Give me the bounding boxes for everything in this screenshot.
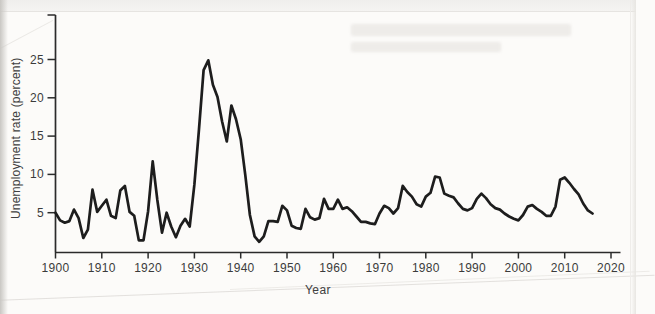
x-tick-label: 2020 — [593, 262, 629, 274]
y-axis — [48, 15, 56, 253]
x-tick-label: 1970 — [362, 262, 398, 274]
x-tick-label: 1920 — [130, 262, 166, 274]
x-tick-label: 1910 — [84, 262, 120, 274]
x-tick-label: 1930 — [176, 262, 212, 274]
x-axis-title: Year — [297, 283, 339, 297]
y-tick-label: 20 — [24, 92, 44, 104]
y-tick-label: 5 — [24, 207, 44, 219]
x-axis-ticks — [56, 253, 612, 259]
x-tick-label: 1980 — [408, 262, 444, 274]
page-scan-right-edge — [630, 0, 636, 314]
unemployment-line — [56, 60, 593, 242]
y-axis-ticks — [48, 60, 56, 213]
x-tick-label: 2010 — [547, 262, 583, 274]
x-tick-label: 1900 — [38, 262, 74, 274]
x-tick-label: 1990 — [454, 262, 490, 274]
page-scan-left-edge — [0, 0, 8, 314]
x-tick-label: 1940 — [223, 262, 259, 274]
y-tick-label: 25 — [24, 54, 44, 66]
y-axis-title: Unemployment rate (percent) — [9, 59, 23, 219]
y-tick-label: 15 — [24, 130, 44, 142]
x-tick-label: 2000 — [500, 262, 536, 274]
x-tick-label: 1950 — [269, 262, 305, 274]
y-tick-label: 10 — [24, 168, 44, 180]
x-tick-label: 1960 — [315, 262, 351, 274]
